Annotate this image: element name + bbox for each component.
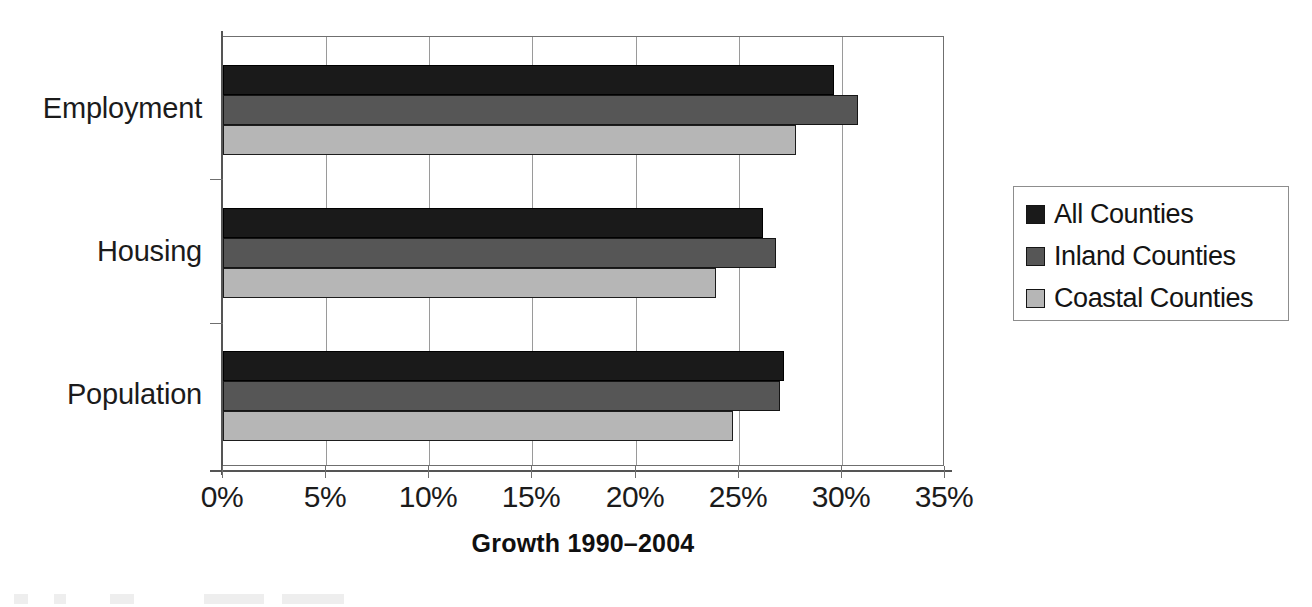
x-axis-title: Growth 1990–2004 [222, 529, 944, 558]
bar-housing-all-counties[interactable] [223, 208, 763, 238]
chart-legend: All Counties Inland Counties Coastal Cou… [1013, 186, 1289, 321]
legend-swatch-icon [1026, 247, 1045, 266]
legend-item-label: Inland Counties [1054, 243, 1236, 270]
legend-swatch-icon [1026, 289, 1045, 308]
x-axis-tick-label: 35% [884, 480, 1004, 514]
category-label-population: Population [67, 380, 202, 409]
x-axis-tick-label: 0% [162, 480, 282, 514]
x-axis-tick [635, 466, 636, 478]
x-axis-tick-label: 30% [781, 480, 901, 514]
scan-artifact [14, 594, 344, 604]
bar-housing-inland-counties[interactable] [223, 238, 776, 268]
x-axis-tick [531, 466, 532, 478]
x-axis-tick [222, 466, 223, 478]
x-axis-tick-label: 10% [368, 480, 488, 514]
bar-population-all-counties[interactable] [223, 351, 784, 381]
x-axis-tick [428, 466, 429, 478]
y-axis-tick [210, 179, 223, 180]
bar-chart-figure: EmploymentHousingPopulation 0%5%10%15%20… [0, 0, 1312, 607]
legend-item[interactable]: Inland Counties [1026, 237, 1288, 276]
category-label-housing: Housing [97, 237, 202, 266]
x-axis-tick [738, 466, 739, 478]
legend-item-label: Coastal Counties [1054, 285, 1253, 312]
y-axis-tick [210, 323, 223, 324]
x-axis-tick [325, 466, 326, 478]
x-axis-tick-label: 15% [471, 480, 591, 514]
x-axis-tick [841, 466, 842, 478]
y-axis-line [221, 31, 223, 475]
legend-swatch-icon [1026, 205, 1045, 224]
bar-employment-inland-counties[interactable] [223, 95, 858, 125]
legend-item-label: All Counties [1054, 201, 1193, 228]
category-label-employment: Employment [43, 94, 202, 123]
bar-population-coastal-counties[interactable] [223, 411, 733, 441]
x-axis-tick-label: 20% [575, 480, 695, 514]
bar-population-inland-counties[interactable] [223, 381, 780, 411]
legend-item[interactable]: Coastal Counties [1026, 279, 1288, 318]
x-axis-tick [944, 466, 945, 478]
legend-item[interactable]: All Counties [1026, 195, 1288, 234]
plot-area [222, 36, 944, 466]
bar-housing-coastal-counties[interactable] [223, 268, 716, 298]
x-axis-tick-label: 5% [265, 480, 385, 514]
bar-employment-all-counties[interactable] [223, 65, 834, 95]
x-axis-tick-label: 25% [678, 480, 798, 514]
bar-employment-coastal-counties[interactable] [223, 125, 796, 155]
